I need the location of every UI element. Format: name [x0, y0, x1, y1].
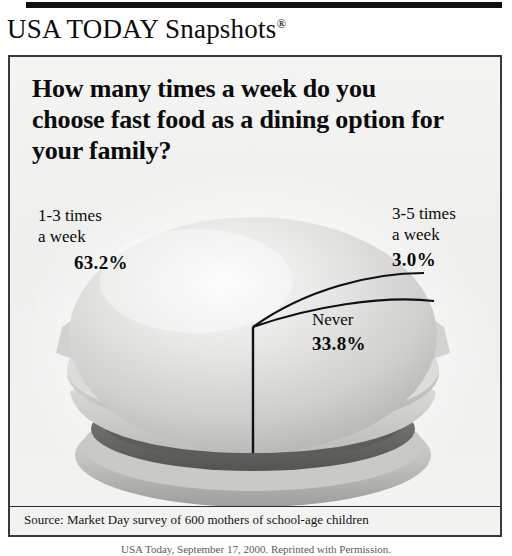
reprint-credit: USA Today, September 17, 2000. Reprinted…: [0, 543, 512, 556]
callout-one-to-three-line1: 1-3 times: [38, 205, 128, 226]
callout-three-to-five-percent: 3.0%: [392, 248, 456, 272]
source-note: Source: Market Day survey of 600 mothers…: [24, 511, 369, 529]
callout-one-to-three-percent: 63.2%: [74, 251, 128, 275]
callout-three-to-five-line2: a week: [392, 224, 456, 245]
masthead-brand-text: USA TODAY Snapshots: [7, 14, 276, 44]
snapshot-page: USA TODAY Snapshots® How many times a we…: [0, 0, 512, 556]
callout-never: Never 33.8%: [312, 309, 366, 356]
snapshot-panel: How many times a week do you choose fast…: [8, 55, 502, 537]
masthead-brand: USA TODAY Snapshots®: [7, 9, 427, 49]
registered-trademark-icon: ®: [276, 16, 286, 31]
callout-three-to-five: 3-5 times a week 3.0%: [392, 203, 456, 272]
top-rule: [26, 2, 502, 8]
callout-never-percent: 33.8%: [312, 332, 366, 356]
callout-one-to-three-line2: a week: [38, 226, 128, 247]
callout-never-line1: Never: [312, 309, 366, 330]
source-divider: [10, 506, 500, 507]
callout-three-to-five-line1: 3-5 times: [392, 203, 456, 224]
bun-highlight: [100, 229, 292, 333]
page-title: How many times a week do you choose fast…: [32, 73, 452, 166]
callout-one-to-three: 1-3 times a week 63.2%: [38, 205, 128, 275]
